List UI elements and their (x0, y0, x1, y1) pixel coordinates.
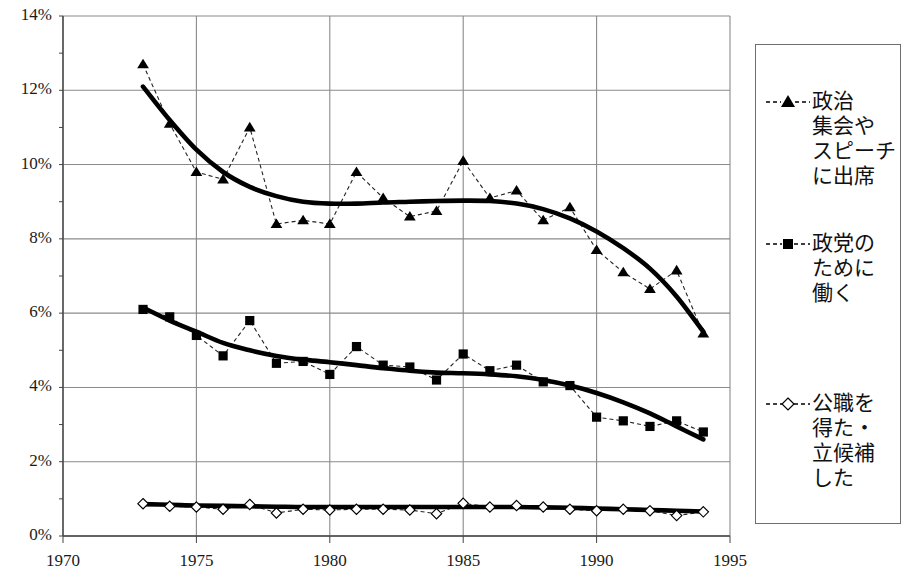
data-point-marker (351, 166, 363, 176)
data-point-marker (699, 427, 708, 436)
data-point-marker (218, 351, 227, 360)
x-tick-label: 1985 (431, 551, 495, 571)
y-tick-label: 14% (0, 5, 52, 25)
y-tick-label: 12% (0, 79, 52, 99)
data-point-marker (645, 422, 654, 431)
data-point-marker (485, 366, 494, 375)
series-dashed-line (143, 64, 703, 333)
legend-item-work-for-party[interactable]: 政党の ために 働く (764, 231, 902, 306)
data-point-marker (671, 265, 683, 275)
data-point-marker (297, 215, 309, 225)
x-tick-label: 1990 (565, 551, 629, 571)
data-point-marker (405, 362, 414, 371)
data-point-marker (539, 377, 548, 386)
data-point-marker (617, 267, 629, 277)
data-point-marker (592, 413, 601, 422)
triangle-marker-icon (764, 92, 812, 112)
data-point-marker (457, 155, 469, 165)
y-tick-label: 0% (0, 525, 52, 545)
data-point-marker (299, 357, 308, 366)
chart-legend: 政治 集会や スピーチ に出席 政党の ために 働く (755, 44, 901, 524)
data-point-marker (538, 502, 548, 512)
data-point-marker (511, 185, 523, 195)
data-point-marker (698, 507, 708, 517)
y-tick-label: 8% (0, 228, 52, 248)
data-point-marker (245, 316, 254, 325)
data-point-marker (619, 416, 628, 425)
data-point-marker (325, 370, 334, 379)
series-3 (138, 498, 709, 521)
data-point-marker (644, 283, 656, 293)
data-point-marker (191, 166, 203, 176)
data-point-marker (271, 508, 281, 518)
data-point-marker (672, 416, 681, 425)
data-point-marker (484, 192, 496, 202)
legend-item-held-office[interactable]: 公職を 得た・ 立候補 した (764, 391, 902, 491)
series-1 (137, 59, 709, 338)
y-tick-label: 6% (0, 302, 52, 322)
series-trend-line (143, 87, 703, 332)
data-point-marker (432, 375, 441, 384)
data-point-marker (137, 59, 149, 69)
x-tick-label: 1970 (31, 551, 95, 571)
data-point-marker (431, 509, 441, 519)
diamond-marker-icon (764, 394, 812, 414)
legend-label-work-for-party: 政党の ために 働く (812, 231, 902, 306)
series-2 (138, 305, 707, 440)
data-point-marker (564, 202, 576, 212)
data-point-marker (192, 331, 201, 340)
data-point-marker (618, 504, 628, 514)
x-tick-label: 1995 (698, 551, 762, 571)
data-point-marker (512, 361, 521, 370)
data-point-marker (324, 218, 336, 228)
plot-area: 14%12%10%8%6%4%2%0% 19701975198019851990… (0, 0, 740, 581)
data-point-marker (431, 205, 443, 215)
y-tick-label: 10% (0, 154, 52, 174)
data-point-marker (138, 498, 148, 508)
data-point-marker (645, 506, 655, 516)
data-point-marker (272, 359, 281, 368)
x-tick-label: 1975 (164, 551, 228, 571)
data-point-marker (138, 305, 147, 314)
data-point-marker (379, 361, 388, 370)
data-point-marker (352, 342, 361, 351)
data-point-marker (591, 244, 603, 254)
x-tick-label: 1980 (298, 551, 362, 571)
legend-label-held-office: 公職を 得た・ 立候補 した (812, 391, 902, 491)
data-point-marker (485, 502, 495, 512)
data-point-marker (244, 122, 256, 132)
data-point-marker (165, 312, 174, 321)
chart-page: 14%12%10%8%6%4%2%0% 19701975198019851990… (0, 0, 905, 581)
legend-label-attend-rallies: 政治 集会や スピーチ に出席 (812, 89, 902, 189)
square-marker-icon (764, 234, 812, 254)
data-point-marker (459, 349, 468, 358)
data-point-marker (565, 381, 574, 390)
y-tick-label: 4% (0, 376, 52, 396)
chart-canvas (0, 0, 740, 581)
legend-item-attend-rallies[interactable]: 政治 集会や スピーチ に出席 (764, 89, 902, 189)
y-tick-label: 2% (0, 451, 52, 471)
